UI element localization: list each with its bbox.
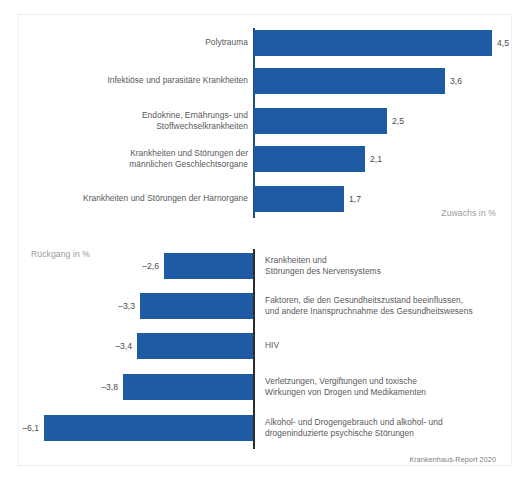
decline-bar (140, 293, 253, 319)
growth-category-label: Infektiöse und parasitäre Krankheiten (18, 75, 248, 86)
growth-axis-caption: Zuwachs in % (441, 208, 496, 218)
decline-bar (164, 253, 253, 279)
growth-bar-row: Krankheiten und Störungen der männlichen… (0, 146, 530, 172)
decline-bar (137, 333, 253, 359)
decline-category-line2: Wirkungen von Drogen und Medikamenten (265, 387, 426, 397)
growth-category-line1: Krankheiten und Störungen der Harnorgane (83, 193, 248, 203)
decline-value-label: –3,8 (92, 382, 118, 392)
growth-chart: Polytrauma 4,5 Infektiöse und parasitäre… (0, 0, 530, 232)
growth-bar (254, 30, 492, 56)
decline-axis-caption: Rückgang in % (31, 249, 90, 259)
decline-value-label: –3,3 (109, 301, 135, 311)
decline-category-label: HIV (265, 340, 520, 351)
decline-category-line1: Alkohol- und Drogengebrauch und alkohol-… (265, 417, 443, 427)
decline-category-line2: Störungen des Nervensystems (265, 266, 381, 276)
growth-bar (254, 108, 387, 134)
decline-bar (123, 374, 253, 400)
growth-category-line1: Polytrauma (205, 37, 248, 47)
growth-bar (254, 146, 365, 172)
growth-bar (254, 68, 445, 94)
growth-category-line1: Krankheiten und Störungen der (130, 148, 248, 158)
decline-bar (44, 415, 253, 441)
decline-category-line2: und andere Inanspruchnahme des Gesundhei… (265, 306, 473, 316)
growth-bar (254, 186, 344, 212)
decline-bar-row: –3,8 Verletzungen, Vergiftungen und toxi… (0, 374, 530, 400)
growth-bar-row: Endokrine, Ernährungs- und Stoffwechselk… (0, 108, 530, 134)
growth-category-label: Polytrauma (18, 37, 248, 48)
growth-bar-row: Infektiöse und parasitäre Krankheiten 3,… (0, 68, 530, 94)
decline-category-label: Krankheiten und Störungen des Nervensyst… (265, 255, 520, 278)
decline-value-label: –3,4 (106, 341, 132, 351)
decline-category-line1: Krankheiten und (265, 255, 327, 265)
decline-category-label: Faktoren, die den Gesundheitszustand bee… (265, 295, 520, 318)
decline-value-label: –6,1 (13, 423, 39, 433)
growth-category-line2: männlichen Geschlechtsorgane (129, 159, 248, 169)
decline-category-line1: Verletzungen, Vergiftungen und toxische (265, 376, 417, 386)
growth-value-label: 1,7 (349, 194, 361, 204)
decline-category-line1: HIV (265, 340, 279, 350)
growth-value-label: 2,5 (392, 116, 404, 126)
chart-figure: Polytrauma 4,5 Infektiöse und parasitäre… (0, 0, 530, 485)
decline-value-label: –2,6 (133, 261, 159, 271)
decline-chart: –2,6 Krankheiten und Störungen des Nerve… (0, 232, 530, 485)
growth-category-label: Endokrine, Ernährungs- und Stoffwechselk… (18, 110, 248, 132)
source-note: Krankenhaus-Report 2020 (409, 455, 496, 464)
decline-category-label: Verletzungen, Vergiftungen und toxische … (265, 376, 520, 399)
growth-value-label: 3,6 (450, 76, 462, 86)
growth-category-line1: Infektiöse und parasitäre Krankheiten (107, 75, 248, 85)
decline-bar-row: –3,3 Faktoren, die den Gesundheitszustan… (0, 293, 530, 319)
growth-category-line1: Endokrine, Ernährungs- und (142, 110, 248, 120)
growth-bar-row: Polytrauma 4,5 (0, 30, 530, 56)
decline-category-line2: drogeninduzierte psychische Störungen (265, 428, 414, 438)
growth-category-line2: Stoffwechselkrankheiten (156, 121, 248, 131)
decline-bar-row: –3,4 HIV (0, 333, 530, 359)
growth-category-label: Krankheiten und Störungen der Harnorgane (18, 193, 248, 204)
growth-category-label: Krankheiten und Störungen der männlichen… (18, 148, 248, 170)
growth-value-label: 2,1 (370, 154, 382, 164)
decline-category-label: Alkohol- und Drogengebrauch und alkohol-… (265, 417, 520, 440)
decline-bar-row: –6,1 Alkohol- und Drogengebrauch und alk… (0, 415, 530, 441)
growth-value-label: 4,5 (497, 38, 509, 48)
decline-category-line1: Faktoren, die den Gesundheitszustand bee… (265, 295, 463, 305)
